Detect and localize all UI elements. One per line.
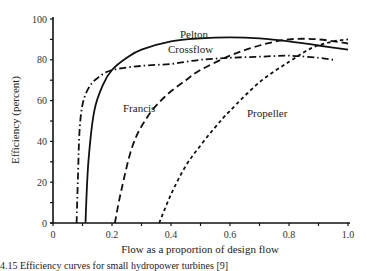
- y-tick-label: 20: [37, 177, 47, 188]
- y-tick-label: 40: [37, 136, 47, 147]
- x-tick-label: 0: [51, 229, 56, 240]
- y-tick-label: 80: [37, 54, 47, 65]
- x-tick-label: 1.0: [342, 229, 355, 240]
- label-francis: Francis: [123, 102, 155, 114]
- curve-francis: [115, 39, 348, 223]
- y-tick-label: 60: [37, 95, 47, 106]
- x-tick-label: 0.6: [224, 229, 237, 240]
- y-tick-label: 100: [32, 14, 47, 25]
- label-propeller: Propeller: [247, 107, 288, 119]
- y-axis-title: Efficiency (percent): [9, 76, 22, 164]
- label-crossflow: Crossflow: [168, 43, 213, 55]
- label-pelton: Pelton: [180, 28, 209, 40]
- x-axis-title: Flow as a proportion of design flow: [121, 243, 279, 255]
- x-tick-label: 0.8: [283, 229, 296, 240]
- curve-crossflow: [77, 56, 334, 223]
- figure-caption: 4.15 Efficiency curves for small hydropo…: [0, 260, 228, 271]
- y-tick-label: 0: [42, 218, 47, 229]
- curve-propeller: [159, 39, 348, 223]
- x-tick-label: 0.2: [106, 229, 119, 240]
- curve-pelton: [86, 37, 349, 223]
- x-tick-label: 0.4: [165, 229, 178, 240]
- chart-curves: [77, 37, 348, 223]
